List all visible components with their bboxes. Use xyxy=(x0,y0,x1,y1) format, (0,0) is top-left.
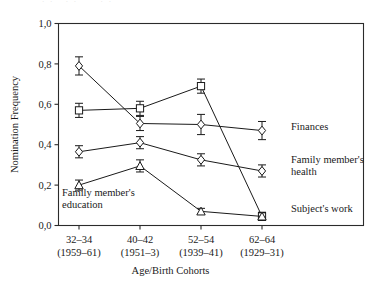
y-axis-tick-label: 0,0 xyxy=(38,220,51,231)
data-point-marker-square xyxy=(136,105,143,112)
y-axis-tick-label: 0,4 xyxy=(38,139,52,150)
x-axis-tick-label: 40–42 xyxy=(127,234,153,245)
y-axis-tick-label: 0,2 xyxy=(38,180,51,191)
data-point-marker-diamond xyxy=(258,167,265,176)
series-annotation-label: health xyxy=(291,166,317,177)
data-point-marker-diamond xyxy=(75,62,82,71)
data-point-marker-diamond xyxy=(197,120,204,129)
data-point-marker-triangle xyxy=(136,162,144,170)
line-chart-plot: 0,00,20,40,60,81,0Nomination Frequency32… xyxy=(0,0,377,291)
data-point-marker-square xyxy=(197,83,204,90)
x-axis-title: Age/Birth Cohorts xyxy=(132,265,210,276)
data-point-marker-square xyxy=(75,107,82,114)
series-annotation-label: Subject's work xyxy=(291,203,353,214)
y-axis-tick-label: 0,6 xyxy=(38,99,51,110)
y-axis-tick-label: 0,8 xyxy=(38,59,51,70)
x-axis-tick-sublabel: (1929–31) xyxy=(240,247,284,259)
data-point-marker-diamond xyxy=(197,155,204,164)
x-axis-tick-sublabel: (1951–3) xyxy=(121,247,160,259)
x-axis-tick-sublabel: (1959–61) xyxy=(57,247,101,259)
data-point-marker-diamond xyxy=(258,126,265,135)
data-point-marker-diamond xyxy=(136,138,143,147)
x-axis-tick-sublabel: (1939–41) xyxy=(179,247,223,259)
data-point-marker-diamond xyxy=(75,147,82,156)
x-axis-tick-label: 32–34 xyxy=(66,234,93,245)
chart-figure: · · · · · · 0,00,20,40,60,81,0Nomination… xyxy=(0,0,377,291)
y-axis-title: Nomination Frequency xyxy=(9,75,20,173)
series-annotation-label: Family member's xyxy=(291,154,364,165)
series-annotation-label: Family member's xyxy=(62,187,135,198)
series-annotation-label: Finances xyxy=(291,121,328,132)
x-axis-tick-label: 62–64 xyxy=(249,234,276,245)
y-axis-tick-label: 1,0 xyxy=(38,18,51,29)
x-axis-tick-label: 52–54 xyxy=(188,234,215,245)
series-line-family-member-s-health xyxy=(79,66,262,131)
series-annotation-label: education xyxy=(62,199,104,210)
data-point-marker-diamond xyxy=(136,119,143,128)
